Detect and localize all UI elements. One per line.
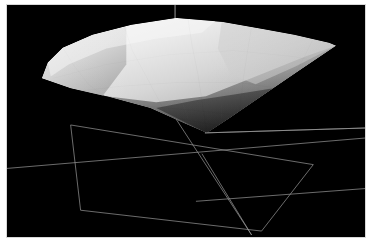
surface-plot-axes xyxy=(6,4,366,238)
surface-plot-scene xyxy=(7,5,365,237)
figure-canvas xyxy=(0,0,372,243)
